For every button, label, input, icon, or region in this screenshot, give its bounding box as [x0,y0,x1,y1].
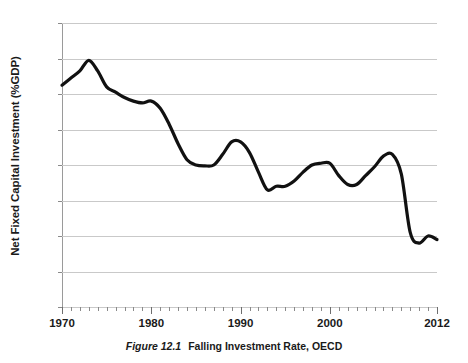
x-tick-mark-1970 [62,307,63,314]
x-tick-label-2012: 2012 [414,317,460,329]
x-tick-mark-1998 [312,307,313,311]
x-tick-mark-2006 [383,307,384,311]
x-tick-mark-2012 [437,307,438,314]
x-tick-mark-2008 [401,307,402,311]
x-tick-label-1980: 1980 [128,317,174,329]
x-tick-mark-1977 [125,307,126,311]
x-tick-mark-2009 [410,307,411,311]
x-tick-mark-1990 [241,307,242,314]
x-tick-mark-1980 [151,307,152,314]
x-tick-mark-2010 [419,307,420,311]
caption-text: Falling Investment Rate, OECD [188,340,342,352]
x-tick-mark-1979 [142,307,143,311]
x-tick-mark-1993 [267,307,268,311]
x-tick-mark-2011 [428,307,429,311]
x-tick-label-1970: 1970 [39,317,85,329]
x-tick-mark-1989 [232,307,233,311]
x-tick-mark-2002 [348,307,349,311]
x-tick-label-1990: 1990 [218,317,264,329]
x-tick-mark-1974 [98,307,99,311]
caption-figure-number: Figure 12.1 [126,340,181,352]
x-tick-mark-1996 [294,307,295,311]
investment-rate-line [62,60,437,243]
x-tick-mark-1994 [276,307,277,311]
x-tick-mark-1983 [178,307,179,311]
x-tick-mark-1992 [258,307,259,311]
x-tick-mark-1987 [214,307,215,311]
x-tick-mark-1971 [71,307,72,311]
x-tick-mark-1986 [205,307,206,311]
plot-area: 0246810121416 19701980199020002012 [62,23,437,307]
figure-container: Net Fixed Capital Investment (%GDP) 0246… [0,0,468,363]
x-tick-mark-1991 [250,307,251,311]
x-tick-mark-2005 [375,307,376,311]
x-tick-mark-1984 [187,307,188,311]
x-tick-mark-1988 [223,307,224,311]
x-tick-mark-1973 [89,307,90,311]
x-tick-label-2000: 2000 [307,317,353,329]
figure-caption: Figure 12.1Falling Investment Rate, OECD [0,340,468,352]
x-tick-mark-1985 [196,307,197,311]
x-tick-mark-1976 [116,307,117,311]
x-tick-mark-1995 [285,307,286,311]
x-tick-mark-1999 [321,307,322,311]
x-tick-mark-1982 [169,307,170,311]
x-tick-mark-2007 [392,307,393,311]
data-series-svg [62,23,437,307]
x-tick-mark-2001 [339,307,340,311]
y-axis-title-label: Net Fixed Capital Investment (%GDP) [9,56,21,256]
x-tick-mark-1978 [133,307,134,311]
x-tick-mark-2003 [357,307,358,311]
x-tick-mark-2004 [366,307,367,311]
x-tick-mark-1997 [303,307,304,311]
x-tick-mark-2000 [330,307,331,314]
x-tick-mark-1972 [80,307,81,311]
y-axis-title: Net Fixed Capital Investment (%GDP) [0,0,30,312]
x-tick-mark-1975 [107,307,108,311]
x-tick-mark-1981 [160,307,161,311]
